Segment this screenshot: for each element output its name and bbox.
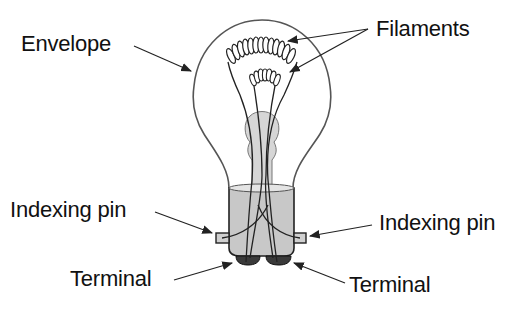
label-terminal-right: Terminal (349, 274, 431, 296)
label-indexing-pin-right: Indexing pin (379, 212, 495, 234)
terminal-right-shape (266, 256, 291, 265)
label-filaments: Filaments (376, 18, 470, 40)
label-indexing-pin-left: Indexing pin (10, 199, 126, 221)
filament-large (225, 37, 298, 65)
arrow-envelope (134, 46, 191, 71)
filament-small (249, 69, 282, 87)
arrow-indexing-pin-left (155, 212, 212, 233)
label-terminal-left: Terminal (70, 268, 152, 290)
label-envelope: Envelope (21, 33, 111, 55)
terminal-left-shape (236, 256, 260, 265)
lamp-base (229, 188, 294, 256)
arrow-indexing-pin-right (310, 225, 372, 236)
arrow-terminal-left (174, 263, 232, 280)
arrow-terminal-right (294, 263, 345, 283)
